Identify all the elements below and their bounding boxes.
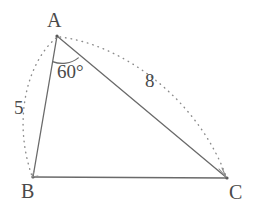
side-bc-line	[33, 177, 227, 178]
vertex-marks	[31, 34, 228, 179]
vertex-a-point	[55, 34, 58, 37]
triangle-diagram-canvas	[0, 0, 254, 216]
vertex-label-c: C	[229, 182, 242, 202]
angle-at-a-label: 60°	[57, 62, 84, 81]
side-ab-measure-label: 5	[14, 98, 24, 117]
vertex-label-a: A	[47, 10, 61, 30]
side-ab-line	[33, 36, 57, 177]
geometry-figure: A B C 5 8 60°	[0, 0, 254, 216]
vertex-label-b: B	[21, 181, 34, 201]
side-ac-measure-label: 8	[145, 71, 155, 90]
triangle-sides	[33, 36, 227, 178]
side-ac-line	[57, 36, 227, 178]
side-ab-measure-arc	[23, 38, 56, 177]
